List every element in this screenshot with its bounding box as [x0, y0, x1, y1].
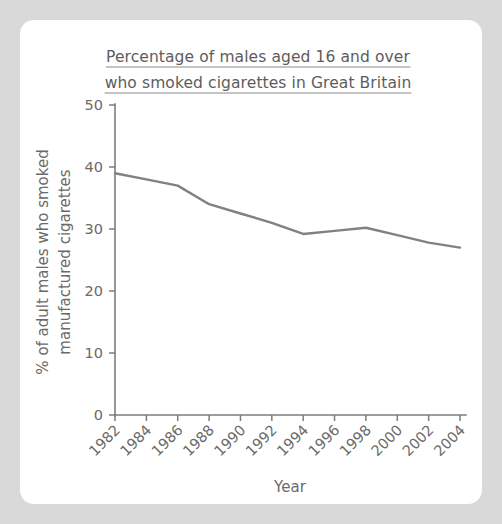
x-axis-ticks: 1982198419861988199019921994199619982000… — [86, 415, 468, 459]
x-tick-label: 1986 — [148, 422, 185, 459]
x-tick-label: 1988 — [180, 422, 217, 459]
x-tick-label: 1996 — [305, 422, 342, 459]
y-axis-label-line-2: manufactured cigarettes — [56, 169, 74, 354]
y-tick-label: 40 — [85, 159, 103, 175]
x-tick-label: 1982 — [86, 422, 123, 459]
y-axis-label-line-1: % of adult males who smoked — [34, 149, 52, 374]
y-tick-label: 30 — [85, 221, 103, 237]
x-tick-label: 1998 — [337, 422, 374, 459]
x-axis-label: Year — [273, 478, 307, 496]
y-tick-label: 10 — [85, 345, 103, 361]
x-tick-label: 1994 — [274, 422, 311, 459]
line-chart: Percentage of males aged 16 and over who… — [0, 0, 502, 524]
chart-title-line-1: Percentage of males aged 16 and over — [106, 48, 411, 66]
x-tick-label: 2000 — [368, 422, 405, 459]
x-tick-label: 1984 — [117, 422, 154, 459]
x-axis: 1982198419861988199019921994199619982000… — [86, 415, 468, 459]
y-axis: 01020304050 — [85, 97, 115, 423]
x-tick-label: 1992 — [243, 422, 280, 459]
y-axis-ticks: 01020304050 — [85, 97, 115, 423]
x-tick-label: 2004 — [431, 422, 468, 459]
y-tick-label: 20 — [85, 283, 103, 299]
x-tick-label: 1990 — [211, 422, 248, 459]
y-tick-label: 50 — [85, 97, 103, 113]
y-axis-label: % of adult males who smoked manufactured… — [34, 149, 74, 374]
chart-title: Percentage of males aged 16 and over who… — [105, 48, 412, 93]
x-tick-label: 2002 — [399, 422, 436, 459]
data-series-line — [115, 173, 460, 247]
y-tick-label: 0 — [94, 407, 103, 423]
chart-title-line-2: who smoked cigarettes in Great Britain — [105, 74, 412, 92]
